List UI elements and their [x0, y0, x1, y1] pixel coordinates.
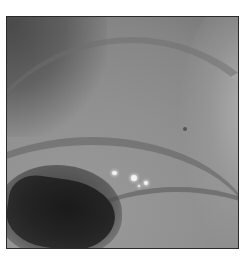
- specular-highlight: [112, 171, 117, 175]
- endoscopy-image: [6, 16, 239, 249]
- specular-highlight: [144, 181, 148, 185]
- specular-highlight: [138, 185, 140, 187]
- specular-highlight: [131, 175, 137, 181]
- mucosal-spot: [183, 127, 187, 131]
